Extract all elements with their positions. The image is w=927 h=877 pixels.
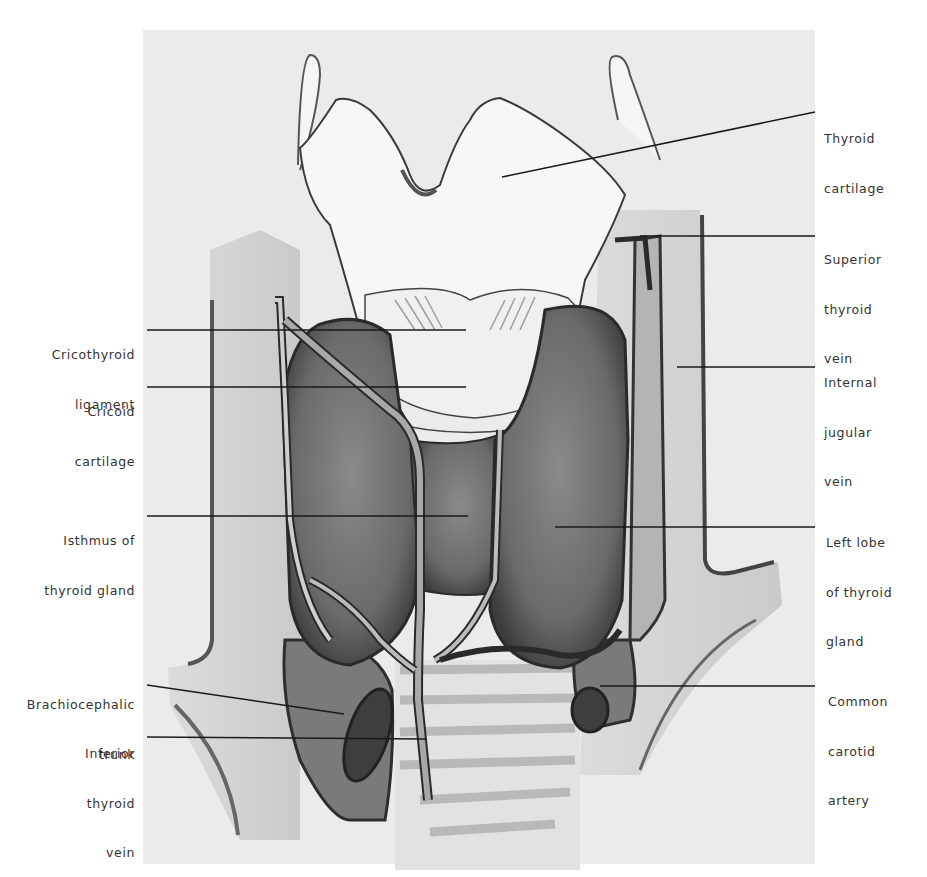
- label-line: vein: [824, 474, 877, 491]
- label-line: Inferior: [85, 746, 135, 763]
- label-line: carotid: [828, 744, 888, 761]
- label-cricoid-cartilage: Cricoid cartilage: [75, 371, 135, 503]
- label-line: jugular: [824, 425, 877, 442]
- label-common-carotid-artery: Common carotid artery: [828, 661, 888, 843]
- label-line: Superior: [824, 252, 882, 269]
- anatomical-figure: Thyroid cartilage Superior thyroid vein …: [0, 0, 927, 877]
- label-line: Isthmus of: [44, 533, 135, 550]
- label-line: cartilage: [75, 454, 135, 471]
- label-line: Common: [828, 694, 888, 711]
- label-line: of thyroid: [826, 585, 892, 602]
- thyroid-illustration: [0, 0, 927, 877]
- label-line: Internal: [824, 375, 877, 392]
- brachiocephalic-trunk-shape: [284, 640, 402, 820]
- internal-jugular-vein-shape: [630, 236, 665, 640]
- label-line: Left lobe: [826, 535, 892, 552]
- label-isthmus-thyroid: Isthmus of thyroid gland: [44, 500, 135, 632]
- label-inferior-thyroid-vein: Inferior thyroid vein: [85, 713, 135, 877]
- label-left-lobe-thyroid: Left lobe of thyroid gland: [826, 502, 892, 684]
- label-thyroid-cartilage: Thyroid cartilage: [824, 98, 884, 230]
- label-line: Thyroid: [824, 131, 884, 148]
- label-line: thyroid gland: [44, 583, 135, 600]
- label-line: cartilage: [824, 181, 884, 198]
- label-line: Cricothyroid: [52, 347, 135, 364]
- label-line: Cricoid: [75, 404, 135, 421]
- label-line: gland: [826, 634, 892, 651]
- label-line: thyroid: [824, 302, 882, 319]
- label-line: vein: [85, 845, 135, 862]
- label-internal-jugular-vein: Internal jugular vein: [824, 342, 877, 524]
- label-line: thyroid: [85, 796, 135, 813]
- label-line: Brachiocephalic: [27, 697, 135, 714]
- label-line: artery: [828, 793, 888, 810]
